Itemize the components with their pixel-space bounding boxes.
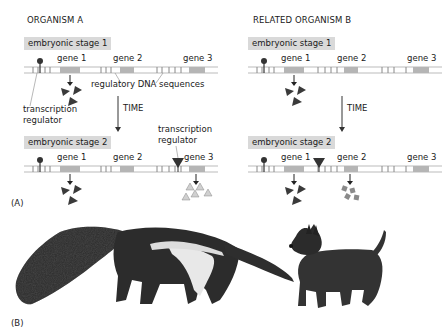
- panel-b-label: (B): [11, 318, 23, 328]
- terrier-dog-illustration: [0, 0, 448, 330]
